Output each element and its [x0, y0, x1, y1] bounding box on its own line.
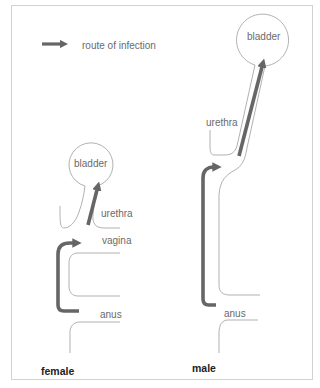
female-vagina-label: vagina — [102, 236, 131, 246]
male-urethra-label: urethra — [206, 118, 238, 128]
female-title: female — [41, 366, 74, 377]
female-vagina-outline — [69, 253, 120, 296]
male-bladder-label: bladder — [247, 32, 280, 42]
male-anus-outline — [219, 320, 258, 353]
male-anatomy — [210, 14, 289, 353]
female-anus-label: anus — [100, 310, 122, 320]
legend-label: route of infection — [82, 41, 156, 51]
female-anatomy — [60, 143, 120, 353]
male-anus-label: anus — [224, 309, 246, 319]
male-route-arrow — [203, 167, 217, 305]
female-urethra-label: urethra — [101, 209, 133, 219]
female-bladder-label: bladder — [74, 159, 107, 169]
male-title: male — [192, 363, 216, 374]
male-urethra-arrow — [239, 63, 263, 156]
female-anus-outline — [70, 322, 120, 353]
female-urethra-left-wall — [60, 186, 85, 228]
male-urethra-right-wall — [219, 66, 265, 295]
diagram-canvas — [0, 0, 320, 388]
